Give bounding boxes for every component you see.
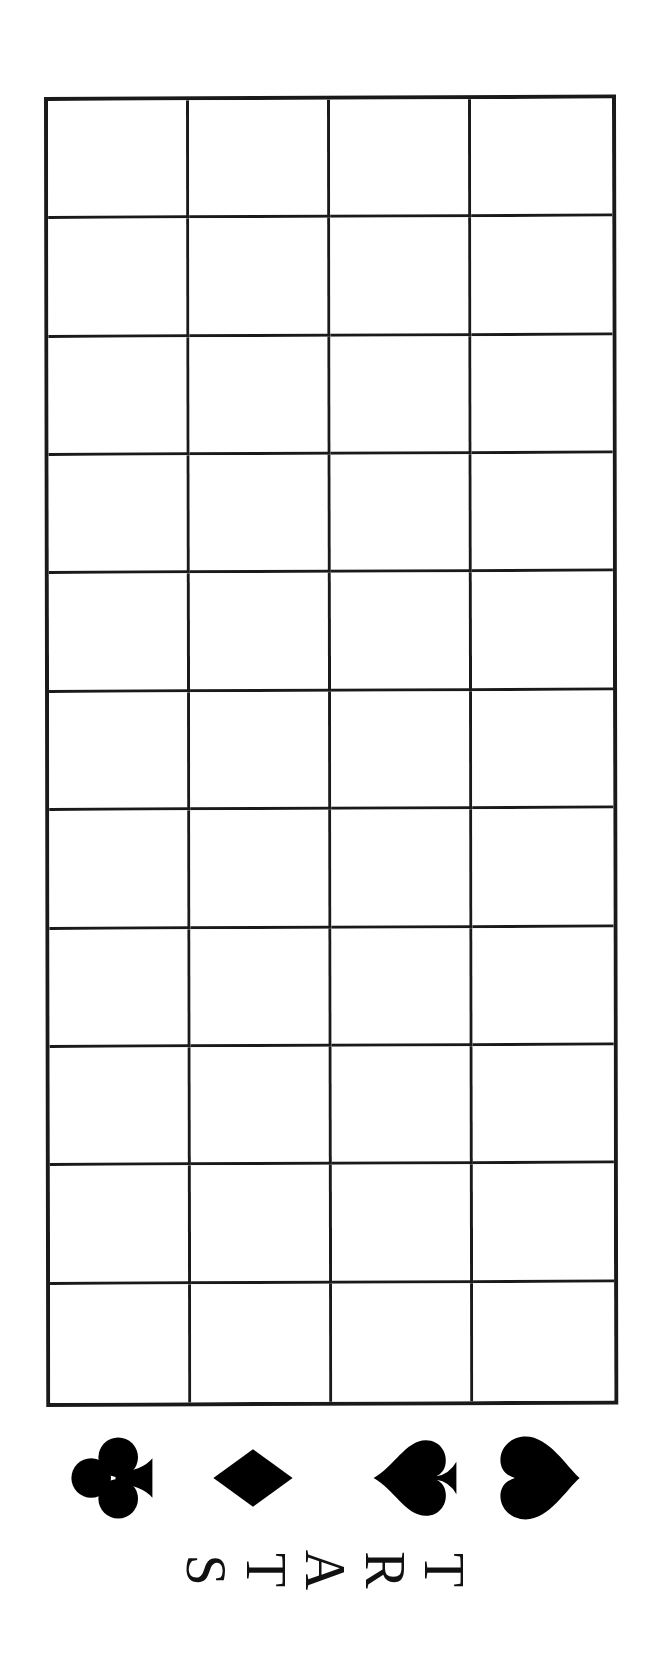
board-cell[interactable] [331,454,472,573]
board-cell[interactable] [332,1283,473,1402]
board-cell[interactable] [331,809,472,928]
board-cell[interactable] [190,573,331,692]
game-board-grid [44,95,618,1407]
board-cell[interactable] [330,336,471,455]
board-cell[interactable] [471,99,612,218]
board-cell[interactable] [472,690,613,809]
start-label: S T A R T [180,1530,470,1610]
board-cell[interactable] [189,336,330,455]
board-cell[interactable] [330,99,471,218]
board-cell[interactable] [50,1284,191,1403]
board-cell[interactable] [190,692,331,811]
board-cell[interactable] [471,335,612,454]
club-icon [66,1433,156,1523]
start-letter-t2: T [416,1544,472,1596]
start-letter-a: A [297,1544,353,1596]
board-cell[interactable] [49,692,190,811]
board-cell[interactable] [473,1282,614,1401]
board-cell[interactable] [331,573,472,692]
board-cell[interactable] [472,927,613,1046]
board-cell[interactable] [190,810,331,929]
board-cell[interactable] [331,928,472,1047]
board-cell[interactable] [332,1164,473,1283]
board-cell[interactable] [472,454,613,573]
board-cell[interactable] [189,100,330,219]
board-cell[interactable] [49,811,190,930]
board-cell[interactable] [50,1166,191,1285]
start-letter-s: S [178,1544,234,1596]
board-cell[interactable] [190,455,331,574]
board-cell[interactable] [49,929,190,1048]
board-cell[interactable] [189,218,330,337]
board-cell[interactable] [191,1047,332,1166]
board-cell[interactable] [50,1047,191,1166]
board-cell[interactable] [48,219,189,338]
board-cell[interactable] [191,1165,332,1284]
board-cell[interactable] [190,928,331,1047]
start-letter-r: R [357,1544,413,1596]
spade-icon [370,1433,460,1523]
board-cell[interactable] [472,809,613,928]
board-cell[interactable] [330,217,471,336]
board-cell[interactable] [332,1046,473,1165]
board-cell[interactable] [49,574,190,693]
board-cell[interactable] [191,1283,332,1402]
start-letter-t: T [238,1544,294,1596]
board-cell[interactable] [49,455,190,574]
board-cell[interactable] [473,1045,614,1164]
board-cell[interactable] [472,572,613,691]
board-cell[interactable] [473,1164,614,1283]
diamond-icon [208,1433,298,1523]
board-cell[interactable] [471,217,612,336]
board-cell[interactable] [331,691,472,810]
board-cell[interactable] [48,100,189,219]
heart-icon [495,1433,585,1523]
board-cell[interactable] [48,337,189,456]
